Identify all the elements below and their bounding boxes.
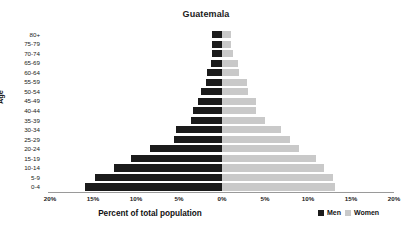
pyramid-row	[48, 125, 394, 135]
y-tick-label: 55-59	[24, 78, 40, 85]
y-tick-label: 60-64	[24, 69, 40, 76]
y-tick-label: 35-39	[24, 117, 40, 124]
bar-women	[222, 79, 247, 86]
bar-women	[222, 126, 281, 133]
y-tick-label: 40-44	[24, 107, 40, 114]
x-tick-label: 10%	[121, 195, 151, 202]
pyramid-row	[48, 40, 394, 50]
pyramid-row	[48, 97, 394, 107]
bar-men	[174, 136, 222, 143]
bar-men	[201, 88, 222, 95]
y-tick-label: 0-4	[31, 183, 40, 190]
bar-women	[222, 117, 265, 124]
bar-women	[222, 107, 256, 114]
bar-men	[212, 41, 222, 48]
x-tick-label: 20%	[35, 195, 65, 202]
bar-women	[222, 183, 335, 190]
x-tick-label: 5%	[164, 195, 194, 202]
population-pyramid-chart: Guatemala Age 80+75-7970-7465-6960-6455-…	[0, 0, 412, 232]
bar-men	[206, 79, 222, 86]
pyramid-row	[48, 59, 394, 69]
plot-area	[48, 30, 394, 192]
y-tick-label: 15-19	[24, 155, 40, 162]
legend-label-men: Men	[327, 209, 341, 216]
bar-women	[222, 145, 299, 152]
legend-swatch-women-icon	[345, 210, 351, 216]
x-tick-label: 10%	[293, 195, 323, 202]
bar-women	[222, 41, 231, 48]
x-axis-tick-labels: 20%15%10%5%0%5%10%15%20%	[0, 195, 412, 207]
bar-men	[131, 155, 222, 162]
bar-women	[222, 98, 256, 105]
x-axis-line	[48, 192, 394, 193]
y-tick-label: 10-14	[24, 164, 40, 171]
y-tick-label: 80+	[30, 31, 41, 38]
y-axis-tick-labels: 80+75-7970-7465-6960-6455-5950-5445-4940…	[0, 30, 44, 192]
pyramid-row	[48, 78, 394, 88]
x-tick-label: 20%	[379, 195, 409, 202]
bar-women	[222, 69, 239, 76]
legend-item-men: Men	[318, 209, 341, 216]
bar-women	[222, 60, 238, 67]
pyramid-row	[48, 182, 394, 192]
y-tick-label: 5-9	[31, 174, 40, 181]
legend-item-women: Women	[345, 209, 379, 216]
bar-men	[114, 164, 222, 171]
bar-women	[222, 136, 290, 143]
pyramid-row	[48, 154, 394, 164]
bar-men	[207, 69, 222, 76]
legend-label-women: Women	[354, 209, 379, 216]
pyramid-row	[48, 173, 394, 183]
bar-men	[211, 60, 222, 67]
y-tick-label: 65-69	[24, 59, 40, 66]
pyramid-row	[48, 163, 394, 173]
bar-men	[212, 31, 222, 38]
x-tick-label: 15%	[336, 195, 366, 202]
chart-title: Guatemala	[0, 9, 412, 19]
bar-women	[222, 174, 333, 181]
pyramid-row	[48, 144, 394, 154]
y-tick-label: 50-54	[24, 88, 40, 95]
x-tick-label: 15%	[78, 195, 108, 202]
y-tick-label: 20-24	[24, 145, 40, 152]
pyramid-row	[48, 116, 394, 126]
pyramid-row	[48, 49, 394, 59]
pyramid-row	[48, 87, 394, 97]
pyramid-row	[48, 68, 394, 78]
bar-women	[222, 88, 248, 95]
bar-women	[222, 164, 324, 171]
x-tick-label: 0%	[207, 195, 237, 202]
y-tick-label: 75-79	[24, 40, 40, 47]
bar-women	[222, 155, 316, 162]
bar-men	[191, 117, 222, 124]
chart-legend: Men Women	[318, 209, 379, 216]
bar-men	[198, 98, 222, 105]
bar-men	[212, 50, 222, 57]
pyramid-row	[48, 106, 394, 116]
bar-men	[150, 145, 222, 152]
bar-men	[85, 183, 222, 190]
y-tick-label: 70-74	[24, 50, 40, 57]
x-axis-title: Percent of total population	[0, 209, 300, 218]
bar-women	[222, 31, 231, 38]
pyramid-row	[48, 30, 394, 40]
y-tick-label: 45-49	[24, 97, 40, 104]
bar-men	[176, 126, 222, 133]
y-tick-label: 30-34	[24, 126, 40, 133]
bar-men	[193, 107, 222, 114]
bar-women	[222, 50, 233, 57]
y-tick-label: 25-29	[24, 136, 40, 143]
bar-men	[95, 174, 222, 181]
pyramid-row	[48, 135, 394, 145]
x-tick-label: 5%	[250, 195, 280, 202]
legend-swatch-men-icon	[318, 210, 324, 216]
